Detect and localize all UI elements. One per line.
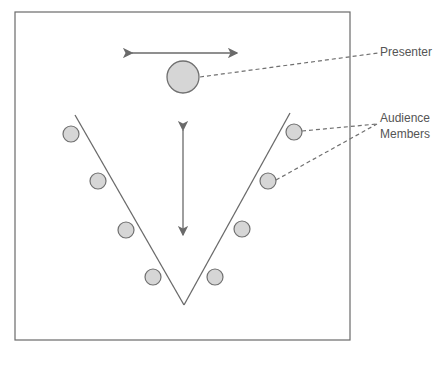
v-line-left [75,115,184,305]
audience-member [63,126,79,142]
presenter-leader-line [200,53,378,77]
audience-label-line1: Audience [380,111,430,126]
audience-member [260,173,276,189]
audience-label-line2: Members [380,127,430,142]
v-line-right [184,113,290,305]
audience-member [234,221,250,237]
audience-member [118,222,134,238]
presenter-label: Presenter [380,45,432,60]
presenter-circle [167,61,199,93]
audience-member [286,124,302,140]
audience-member [207,269,223,285]
audience-member [90,173,106,189]
audience-member [145,269,161,285]
audience-leader-line [302,124,377,131]
